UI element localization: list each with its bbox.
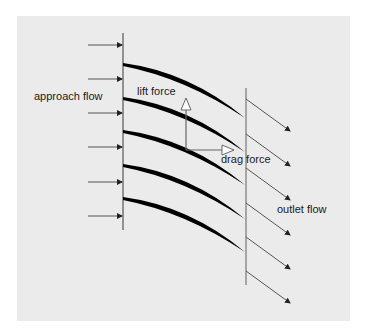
outlet-flow-label: outlet flow — [277, 203, 327, 215]
cascade-diagram — [0, 0, 366, 335]
approach-flow-arrows — [88, 45, 122, 216]
approach-flow-label: approach flow — [34, 90, 103, 102]
drag-force-label: drag force — [221, 153, 271, 165]
lift-force-arrow — [181, 98, 191, 150]
outlet-flow-arrows — [246, 99, 290, 303]
lift-force-label: lift force — [137, 85, 176, 97]
